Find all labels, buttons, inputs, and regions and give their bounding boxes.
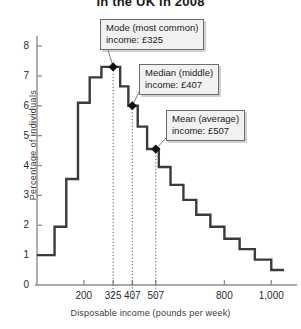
- y-tick-3: 3: [13, 189, 29, 200]
- x-tick-1000: 1,000: [259, 290, 284, 301]
- distribution-step-curve: [37, 67, 284, 270]
- x-tick-200: 200: [76, 290, 93, 301]
- callout-mode-line2: income: £325: [106, 34, 198, 46]
- callout-median: Median (middle) income: £407: [139, 64, 219, 95]
- callout-median-line2: income: £407: [145, 79, 213, 91]
- y-tick-6: 6: [13, 100, 29, 111]
- callout-mean-line1: Mean (average): [172, 113, 239, 124]
- callout-mode: Mode (most common) income: £325: [100, 19, 204, 50]
- marker-mode: [109, 62, 118, 71]
- callout-mode-line1: Mode (most common): [106, 22, 198, 33]
- callout-median-line1: Median (middle): [145, 67, 213, 78]
- x-tick-325: 325: [105, 290, 122, 301]
- y-tick-8: 8: [13, 40, 29, 51]
- callout-mean: Mean (average) income: £507: [166, 110, 245, 141]
- chart-root: in the UK in 2008 Percentage of individu…: [0, 0, 301, 329]
- x-tick-800: 800: [216, 290, 233, 301]
- callout-mean-line2: income: £507: [172, 125, 239, 137]
- y-tick-7: 7: [13, 70, 29, 81]
- y-tick-5: 5: [13, 130, 29, 141]
- x-tick-507: 507: [147, 290, 164, 301]
- y-tick-1: 1: [13, 249, 29, 260]
- x-tick-407: 407: [124, 290, 141, 301]
- y-tick-0: 0: [13, 279, 29, 290]
- y-tick-4: 4: [13, 160, 29, 171]
- y-tick-2: 2: [13, 219, 29, 230]
